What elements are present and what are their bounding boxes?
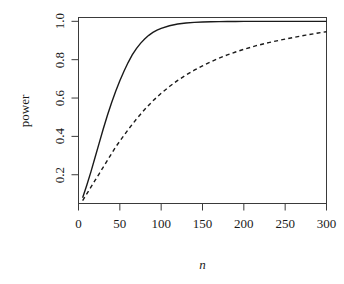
y-tick-label: 0.4: [52, 128, 65, 144]
y-tick-label: 0.6: [52, 90, 65, 106]
x-tick-label: 150: [193, 217, 213, 230]
x-tick-label: 200: [234, 217, 254, 230]
y-tick-label: 1.0: [52, 13, 65, 29]
y-tick-label: 0.8: [52, 52, 65, 68]
power-curve-figure: 050100150200250300 0.20.40.60.81.0 n pow…: [0, 0, 344, 284]
x-tick-label: 0: [75, 217, 82, 230]
x-tick-label: 50: [113, 217, 126, 230]
x-axis-title: n: [199, 258, 206, 271]
x-tick-label: 250: [275, 217, 295, 230]
y-axis-title: power: [18, 94, 31, 127]
y-tick-label: 0.2: [52, 167, 65, 183]
x-tick-label: 300: [317, 217, 337, 230]
x-tick-label: 100: [151, 217, 171, 230]
